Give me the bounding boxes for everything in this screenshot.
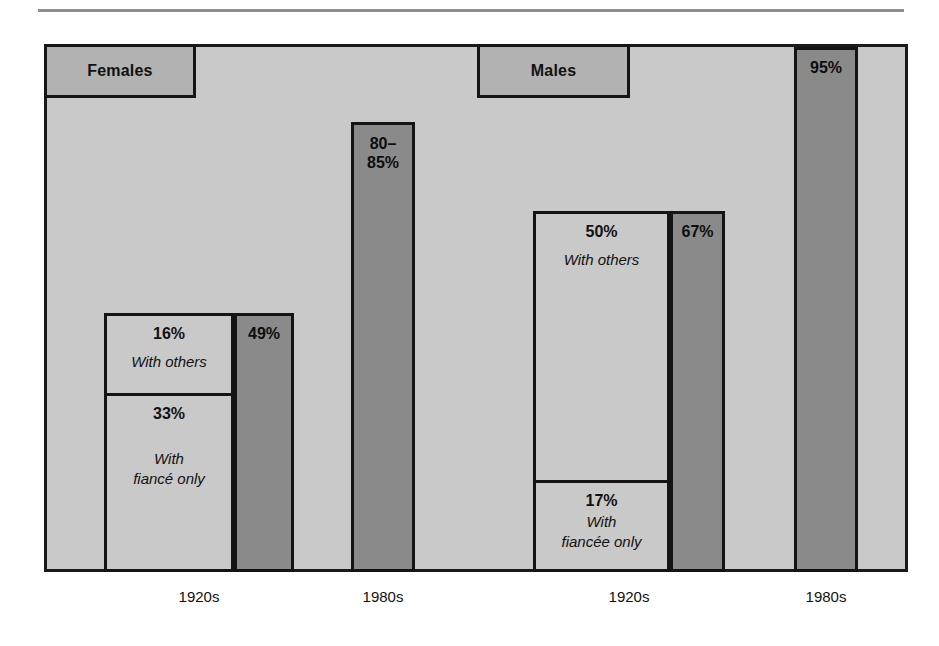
segment-females-with-others: 16% With others — [107, 316, 231, 396]
x-axis-label-females-1920s: 1920s — [134, 588, 264, 605]
section-header-label: Males — [531, 62, 576, 80]
segment-note: With others — [564, 250, 640, 270]
segment-value-label: 50% — [585, 223, 617, 241]
chart-canvas: 16% With others 33% With fiancé only 49%… — [0, 0, 939, 646]
bar-males-1920s-stacked: 50% With others 17% With fiancée only — [533, 211, 670, 572]
segment-note: With fiancé only — [133, 449, 205, 488]
bar-value-label: 80– 85% — [354, 134, 412, 172]
bar-value-label: 49% — [237, 325, 291, 343]
bar-females-1980s: 80– 85% — [351, 122, 415, 572]
segment-note: With others — [131, 352, 207, 372]
segment-value-label: 16% — [153, 325, 185, 343]
x-axis-label-males-1920s: 1920s — [564, 588, 694, 605]
section-header-label: Females — [87, 62, 152, 80]
bar-males-1920s-total: 67% — [670, 211, 725, 572]
section-header-males: Males — [477, 44, 630, 98]
bar-females-1920s-stacked: 16% With others 33% With fiancé only — [104, 313, 234, 572]
bar-males-1980s: 95% — [794, 47, 858, 572]
segment-females-with-fiance-only: 33% With fiancé only — [107, 396, 231, 569]
x-axis-label-females-1980s: 1980s — [318, 588, 448, 605]
bar-females-1920s-total: 49% — [234, 313, 294, 572]
segment-note: With fiancée only — [561, 512, 641, 551]
segment-males-with-others: 50% With others — [536, 214, 667, 483]
x-axis-label-males-1980s: 1980s — [761, 588, 891, 605]
segment-value-label: 17% — [585, 492, 617, 510]
segment-value-label: 33% — [153, 405, 185, 423]
top-rule — [38, 9, 904, 12]
bar-value-label: 67% — [673, 223, 722, 241]
segment-males-with-fiancee-only: 17% With fiancée only — [536, 483, 667, 569]
bar-value-label: 95% — [797, 59, 855, 77]
section-header-females: Females — [44, 44, 196, 98]
